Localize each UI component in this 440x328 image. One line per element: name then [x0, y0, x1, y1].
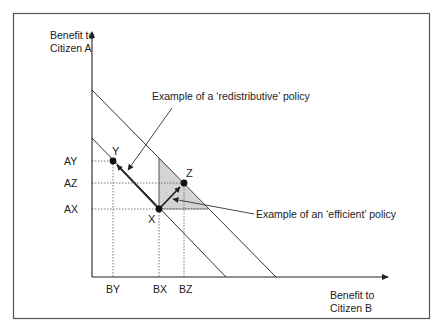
- tick-by: BY: [106, 283, 120, 295]
- point-x: [156, 206, 163, 213]
- point-y: [110, 158, 117, 165]
- tick-az: AZ: [64, 177, 78, 189]
- y-axis-title-line2: Citizen A: [50, 42, 91, 54]
- x-axis-title-line1: Benefit to: [330, 289, 375, 301]
- tick-ay: AY: [64, 155, 77, 167]
- x-axis-title-line2: Citizen B: [330, 302, 372, 314]
- redistributive-pointer: [128, 108, 172, 170]
- redistributive-move-arrow: [117, 165, 159, 209]
- y-axis-title-line1: Benefit to: [50, 29, 95, 41]
- tick-ax: AX: [64, 203, 78, 215]
- redistributive-annotation: Example of a ‘redistributive’ policy: [152, 90, 311, 102]
- point-x-label: X: [148, 213, 156, 225]
- point-y-label: Y: [112, 145, 120, 157]
- tick-bx: BX: [153, 283, 167, 295]
- efficient-annotation: Example of an ‘efficient’ policy: [256, 208, 397, 220]
- point-z: [181, 180, 188, 187]
- tick-bz: BZ: [179, 283, 193, 295]
- policy-diagram: Y X Z AY AZ AX BY BX BZ Benefit to Citiz…: [0, 0, 440, 328]
- point-z-label: Z: [186, 167, 193, 179]
